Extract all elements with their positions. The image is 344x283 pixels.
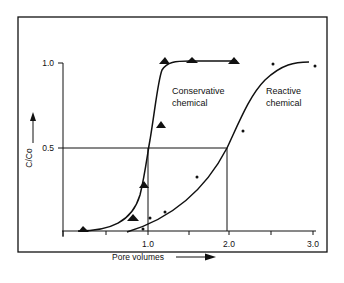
x-tick-label-1: 1.0	[142, 239, 154, 249]
breakthrough-curve-chart: 1.0 0.5 C/Co 1.0 2.0 3.0 Pore volumes	[0, 0, 344, 283]
x-tick-label-2: 2.0	[223, 239, 235, 249]
y-tick-label-1: 1.0	[42, 58, 54, 68]
y-axis-arrow-icon	[30, 112, 36, 121]
reactive-label-line1: Reactive	[266, 86, 301, 96]
x-ticks	[63, 231, 313, 237]
dot-marker-icon	[149, 217, 152, 220]
dot-marker-icon	[314, 65, 317, 68]
conservative-label-line1: Conservative	[172, 86, 225, 96]
dot-marker-icon	[242, 130, 245, 133]
dot-marker-icon	[196, 176, 199, 179]
conservative-label-line2: chemical	[172, 98, 208, 108]
triangle-marker-icon	[78, 226, 89, 232]
dot-marker-icon	[272, 63, 275, 66]
x-tick-label-3: 3.0	[307, 239, 319, 249]
x-axis-arrow-icon	[205, 254, 216, 261]
chart-frame	[18, 17, 327, 252]
triangle-marker-icon	[159, 57, 170, 64]
triangle-marker-icon	[156, 121, 166, 128]
dot-marker-icon	[142, 228, 145, 231]
y-tick-label-05: 0.5	[42, 143, 54, 153]
triangle-marker-icon	[186, 57, 198, 63]
x-axis-label: Pore volumes	[112, 252, 164, 262]
y-axis-label: C/Co	[24, 148, 34, 168]
reactive-label-line2: chemical	[266, 98, 302, 108]
dot-marker-icon	[164, 211, 167, 214]
